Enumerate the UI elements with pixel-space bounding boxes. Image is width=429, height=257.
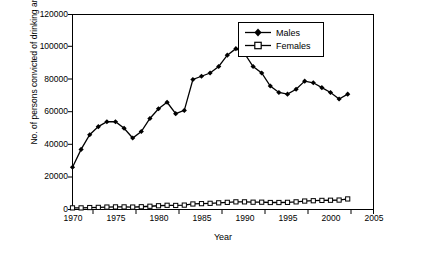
legend-marker-diamond-icon bbox=[243, 27, 273, 38]
legend-label-females: Females bbox=[273, 41, 311, 51]
series-females bbox=[70, 197, 349, 210]
legend-marker-square-icon bbox=[243, 40, 273, 51]
series-layer bbox=[0, 0, 429, 257]
legend-item-females: Females bbox=[243, 39, 319, 52]
legend-label-males: Males bbox=[273, 28, 300, 38]
y-tick-marks bbox=[68, 15, 72, 210]
chart-container: 0 20000 40000 60000 80000 100000 120000 … bbox=[0, 0, 429, 257]
x-tick-marks bbox=[93, 210, 374, 214]
series-males bbox=[70, 46, 350, 170]
legend-item-males: Males bbox=[243, 26, 319, 39]
legend: Males Females bbox=[238, 22, 324, 57]
